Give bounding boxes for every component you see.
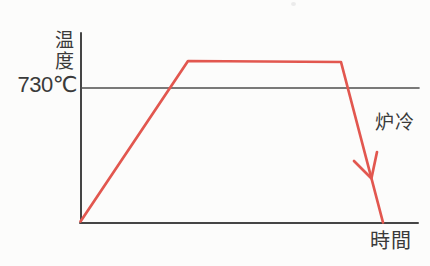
temperature-curve [81,61,384,223]
annealing-temperature-time-diagram: 温度 730℃ 炉冷 時間 [0,0,430,266]
furnace-cooling-annotation: 炉冷 [375,113,415,132]
y-axis-label: 温度 [53,30,72,72]
scan-artifact-dot [291,2,296,6]
reference-line-label-730c: 730℃ [10,74,77,96]
x-axis-label: 時間 [370,231,412,251]
